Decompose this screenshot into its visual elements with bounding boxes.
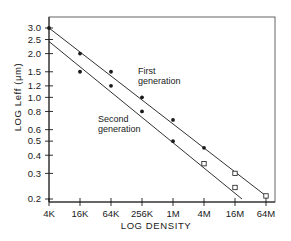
chart: 3.02.52.01.51.21.00.80.60.50.40.30.2 4K1…	[0, 0, 291, 241]
y-tick-label: 0.8	[28, 106, 41, 117]
data-point-filled	[78, 52, 82, 56]
y-tick-label: 0.6	[28, 124, 41, 135]
y-tick-label: 0.3	[28, 168, 41, 179]
x-tick-label: 4K	[43, 208, 55, 219]
data-point-filled	[47, 26, 51, 30]
data-point-filled	[109, 84, 113, 88]
y-tick-label: 1.5	[28, 66, 41, 77]
y-tick-label: 1.0	[28, 92, 41, 103]
y-tick-label: 3.0	[28, 22, 41, 33]
x-tick-label: 1M	[166, 208, 179, 219]
data-point-open-square	[264, 194, 268, 198]
x-tick-label: 16K	[72, 208, 90, 219]
y-tick-label: 2.5	[28, 34, 41, 45]
y-tick-label: 0.4	[28, 150, 41, 161]
first-generation-label-line2: generation	[138, 76, 181, 86]
data-point-filled	[140, 110, 144, 114]
data-point-filled	[171, 118, 175, 122]
x-tick-label: 64K	[103, 208, 121, 219]
data-point-filled	[109, 70, 113, 74]
y-axis-label: LOG Leff (μm)	[12, 63, 23, 132]
data-point-filled	[78, 70, 82, 74]
y-tick-label: 2.0	[28, 48, 41, 59]
data-point-open-square	[233, 185, 237, 189]
first-generation-label-line1: First	[138, 66, 156, 76]
data-point-filled	[202, 146, 206, 150]
x-tick-label: 64M	[257, 208, 276, 219]
data-point-filled	[171, 139, 175, 143]
data-point-open-square	[202, 161, 206, 165]
y-tick-label: 1.2	[28, 80, 41, 91]
x-tick-label: 256K	[131, 208, 154, 219]
x-tick-label: 4M	[197, 208, 210, 219]
second-generation-label-line1: Second	[98, 114, 129, 124]
x-tick-label: 16M	[226, 208, 245, 219]
x-axis-label: LOG DENSITY	[121, 220, 192, 231]
data-point-open-square	[233, 171, 237, 175]
second-generation-label-line2: generation	[98, 124, 141, 134]
x-axis-ticks: 4K16K64K256K1M4M16M64M	[43, 198, 275, 219]
plot-frame	[49, 17, 275, 202]
data-point-filled	[140, 95, 144, 99]
y-tick-label: 0.2	[28, 193, 41, 204]
y-tick-label: 0.5	[28, 135, 41, 146]
